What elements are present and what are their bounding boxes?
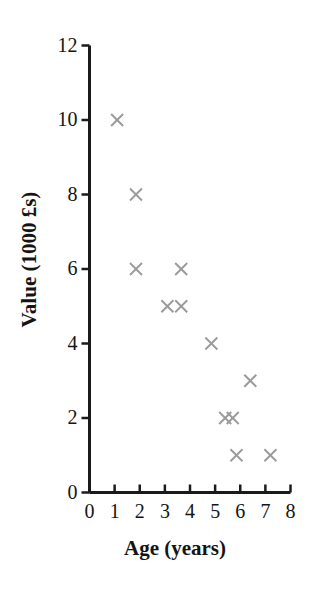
data-point-marker xyxy=(111,114,123,126)
data-point-marker xyxy=(205,338,217,350)
data-point-marker xyxy=(130,189,142,201)
data-point-marker xyxy=(175,300,187,312)
scatter-chart: Value (1000 £s) Age (years) 024681012 01… xyxy=(0,0,311,604)
data-point-marker xyxy=(264,449,276,461)
data-point-marker xyxy=(230,449,242,461)
data-points xyxy=(111,114,276,461)
plot-area xyxy=(0,0,311,604)
data-point-marker xyxy=(244,375,256,387)
data-point-marker xyxy=(227,412,239,424)
tick-marks xyxy=(82,46,291,493)
data-point-marker xyxy=(161,300,173,312)
data-point-marker xyxy=(175,263,187,275)
axis-lines xyxy=(90,46,291,493)
data-point-marker xyxy=(130,263,142,275)
